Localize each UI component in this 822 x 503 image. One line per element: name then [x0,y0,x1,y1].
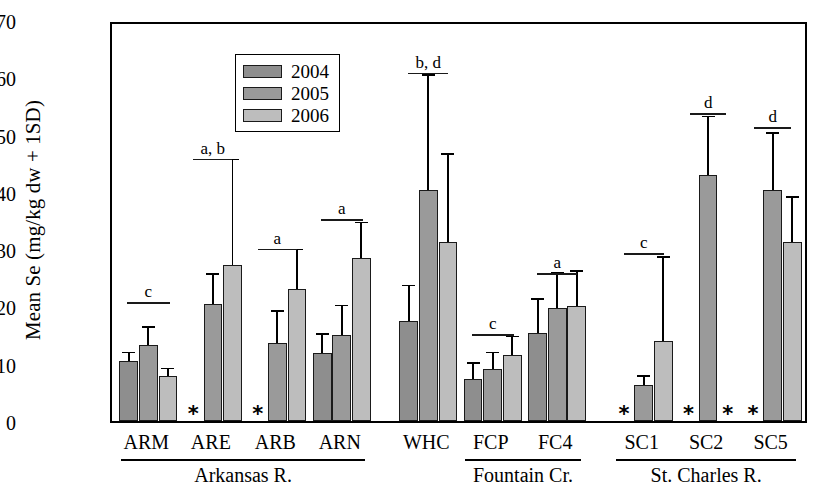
y-tick-label: 50 [0,127,16,147]
bar [483,369,502,421]
error-bar-cap [702,116,715,118]
y-tick-label: 60 [0,69,16,89]
bar [503,355,522,421]
y-tick-label: 40 [0,184,16,204]
error-bar-whisker [360,223,362,258]
selenium-bar-chart: Mean Se (mg/kg dw + 1SD) 010203040506070… [0,0,822,503]
error-bar-cap [486,352,499,354]
x-tick-label: SC1 [624,431,658,454]
bar-group: * [743,24,802,421]
bar [654,341,673,421]
legend-item-2006: 2006 [243,104,329,126]
x-tick-label: FCP [473,431,509,454]
significance-label: c [145,283,153,300]
bar-group: * [614,24,673,421]
error-bar-whisker [232,160,234,264]
error-bar-whisker [408,286,410,320]
error-bar-whisker [472,364,474,379]
error-bar-cap [637,375,650,377]
missing-data-asterisk: * [748,408,759,420]
significance-rule [690,113,726,115]
bar-group: * [183,24,242,421]
error-bar-cap [531,298,544,300]
legend-swatch-2004 [243,65,282,78]
error-bar-whisker [427,76,429,191]
bar-group [399,24,458,421]
y-tick-label: 10 [0,356,16,376]
error-bar-whisker [662,258,664,341]
significance-label: d [768,108,777,125]
y-tick-label: 30 [0,241,16,261]
legend-label-2004: 2004 [291,62,329,81]
group-label: Fountain Cr. [473,464,573,487]
error-bar-whisker [128,353,130,360]
bar [783,242,802,421]
bar [439,242,458,421]
bar [548,308,567,421]
error-bar-cap [122,352,135,354]
legend: 2004 2005 2006 [235,54,340,132]
y-tick-label: 20 [0,298,16,318]
x-tick-label: SC2 [689,431,723,454]
bar-group [463,24,522,421]
bar [419,190,438,421]
error-bar-cap [316,333,329,335]
x-tick-label: ARM [124,431,170,454]
legend-swatch-2006 [243,109,282,122]
group-label: St. Charles R. [651,464,762,487]
legend-item-2004: 2004 [243,60,329,82]
error-bar-cap [161,368,174,370]
x-tick-label: ARE [191,431,231,454]
bar [223,265,242,421]
x-tick-label: ARN [319,431,361,454]
error-bar-whisker [511,337,513,355]
significance-rule [537,273,577,275]
bar [567,306,586,421]
bars-layer: ******ca, baab, dcacdd [112,24,805,421]
significance-rule [258,249,297,251]
bar [288,289,307,421]
significance-label: a, b [201,140,226,157]
significance-rule [624,253,664,255]
bar-group: ** [679,24,738,421]
error-bar-whisker [296,250,298,289]
bar-group [528,24,587,421]
significance-rule [472,334,514,336]
error-bar-whisker [321,335,323,353]
error-bar-cap [335,305,348,307]
group-label: Arkansas R. [194,464,292,487]
error-bar-cap [657,256,670,258]
significance-rule [321,219,363,221]
significance-rule [754,127,790,129]
missing-data-asterisk: * [252,408,263,420]
significance-rule [127,302,169,304]
error-bar-cap [355,222,368,224]
error-bar-cap [271,310,284,312]
group-rule [616,459,796,461]
error-bar-whisker [772,134,774,190]
y-tick-label: 0 [0,413,16,433]
group-rule [121,459,365,461]
error-bar-whisker [643,377,645,386]
significance-label: a [274,230,282,247]
error-bar-whisker [276,312,278,342]
error-bar-whisker [576,272,578,306]
significance-label: a [338,200,346,217]
bar [763,190,782,421]
bar [332,335,351,421]
significance-rule [193,159,232,161]
bar [528,333,547,421]
error-bar-whisker [212,275,214,304]
bar [464,379,483,421]
significance-label: c [489,315,497,332]
error-bar-whisker [537,300,539,334]
missing-data-asterisk: * [619,408,630,420]
error-bar-whisker [447,155,449,242]
significance-label: d [704,94,713,111]
error-bar-cap [142,326,155,328]
x-tick-label: FC4 [538,431,572,454]
error-bar-whisker [707,117,709,175]
error-bar-cap [467,362,480,364]
legend-item-2005: 2005 [243,82,329,104]
missing-data-asterisk: * [722,408,733,420]
